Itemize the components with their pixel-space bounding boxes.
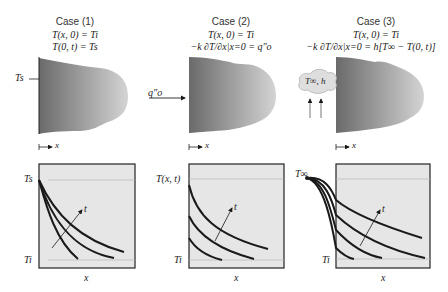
case1-boundary-condition: T(0, t) = Ts xyxy=(15,41,135,52)
case1-plot-x-label: x xyxy=(84,272,88,283)
case1-time-label: t xyxy=(84,203,87,214)
case2-x-arrow xyxy=(189,144,202,150)
case1-slab xyxy=(29,57,128,134)
case3-initial-condition: T(x, 0) = Ti xyxy=(316,29,436,40)
case1-plot-y-bottom: Ti xyxy=(24,254,32,265)
case1-plot xyxy=(39,164,135,268)
case1-axis-label: x xyxy=(55,140,59,150)
case2-plot-y-bottom: Ti xyxy=(174,254,182,265)
case2-boundary-condition: −k ∂T/∂x|x=0 = q″o xyxy=(161,41,301,52)
case2-axis-label: x xyxy=(205,140,209,150)
case3-plot-y-top: T∞ xyxy=(295,168,308,179)
case3-plot xyxy=(305,164,430,268)
case1-plot-y-top: Ts xyxy=(24,173,33,184)
case3-surface-label: T∞, h xyxy=(305,76,325,86)
case3-plot-x-label: x xyxy=(381,272,385,283)
case2-time-label: t xyxy=(234,201,237,212)
case3-axis-label: x xyxy=(352,140,356,150)
case2-title: Case (2) xyxy=(171,16,291,27)
case2-plot xyxy=(189,164,284,268)
case2-surface-label: q″o xyxy=(148,87,162,98)
case3-boundary-condition: −k ∂T/∂x|x=0 = h[T∞ − T(0, t)] xyxy=(296,41,446,52)
case3-time-label: t xyxy=(382,203,385,214)
case3-plot-y-bottom: Ti xyxy=(322,254,330,265)
case1-title: Case (1) xyxy=(15,16,135,27)
case3-slab xyxy=(299,57,424,133)
case2-plot-x-label: x xyxy=(234,272,238,283)
case1-surface-label: Ts xyxy=(15,72,24,83)
case3-x-arrow xyxy=(336,144,349,150)
case2-initial-condition: T(x, 0) = Ti xyxy=(171,29,291,40)
case2-plot-y-top: T(x, t) xyxy=(156,173,180,184)
case1-x-arrow xyxy=(39,144,52,150)
case2-slab xyxy=(149,57,276,133)
case1-initial-condition: T(x, 0) = Ti xyxy=(15,29,135,40)
case3-title: Case (3) xyxy=(316,16,436,27)
